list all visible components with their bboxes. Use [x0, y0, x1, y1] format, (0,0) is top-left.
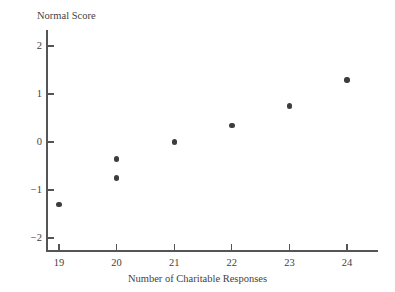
data-point	[287, 103, 292, 108]
y-tick-label: −1	[20, 185, 42, 196]
y-tick-neg2	[47, 237, 54, 238]
x-axis-line	[46, 250, 378, 252]
data-point	[172, 139, 177, 144]
data-point	[56, 202, 61, 207]
x-tick-23	[289, 244, 290, 251]
x-tick-label: 22	[217, 258, 247, 269]
normal-probability-plot: Normal Score 210−1−2 192021222324 Number…	[0, 0, 395, 292]
x-tick-19	[58, 244, 59, 251]
x-axis-title: Number of Charitable Responses	[0, 274, 395, 285]
y-tick-label: 0	[20, 137, 42, 148]
y-tick-0	[47, 141, 54, 142]
y-tick-label: −2	[20, 233, 42, 244]
x-tick-label: 23	[274, 258, 304, 269]
y-tick-1	[47, 93, 54, 94]
data-point	[114, 175, 119, 180]
x-tick-label: 24	[332, 258, 362, 269]
x-tick-label: 19	[44, 258, 74, 269]
y-tick-label: 1	[20, 89, 42, 100]
x-tick-24	[346, 244, 347, 251]
x-tick-label: 21	[159, 258, 189, 269]
x-tick-label: 20	[102, 258, 132, 269]
x-tick-20	[116, 244, 117, 251]
y-tick-neg1	[47, 189, 54, 190]
data-point	[229, 123, 234, 128]
x-tick-21	[174, 244, 175, 251]
x-tick-22	[231, 244, 232, 251]
y-axis-title: Normal Score	[37, 11, 96, 22]
data-point	[114, 156, 119, 161]
data-point	[344, 77, 349, 82]
y-tick-label: 2	[20, 41, 42, 52]
y-tick-2	[47, 45, 54, 46]
